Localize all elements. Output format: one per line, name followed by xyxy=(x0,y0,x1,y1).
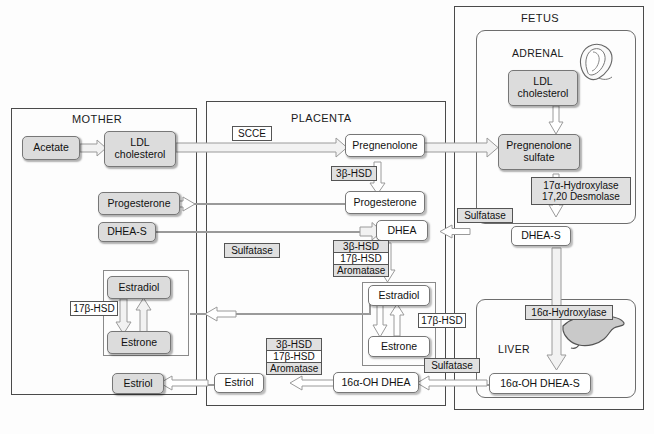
enzyme-stack-dhea-row-2: Aromatase xyxy=(333,264,389,277)
node-16a-oh-dhea-s[interactable]: 16α-OH DHEA-S xyxy=(489,373,591,394)
adrenal-gland-icon xyxy=(572,40,618,86)
enzyme-17b-hsd-placenta: 17β-HSD xyxy=(418,313,466,328)
enzyme-stack-dhea-row-1: 17β-HSD xyxy=(333,252,389,264)
pregnenolone-sulfate-line-2: sulfate xyxy=(524,152,555,164)
node-ldl-cholesterol-fetus[interactable]: LDL cholesterol xyxy=(508,70,578,106)
pathway-diagram: MOTHER PLACENTA FETUS ADRENAL LIVER .ha{… xyxy=(0,0,654,434)
enzyme-stack-estriol-row-2: Aromatase xyxy=(266,362,322,375)
node-16a-oh-dhea-placenta[interactable]: 16α-OH DHEA xyxy=(333,372,419,393)
node-progesterone-placenta[interactable]: Progesterone xyxy=(345,191,425,214)
enzyme-sulfatase-ohdhea: Sulfatase xyxy=(424,358,480,373)
ldl-line-2: cholesterol xyxy=(115,149,166,161)
node-estriol-mother[interactable]: Estriol xyxy=(112,373,164,394)
node-estriol-placenta[interactable]: Estriol xyxy=(214,373,264,393)
node-estrone-placenta[interactable]: Estrone xyxy=(368,336,430,357)
enzyme-17b-hsd-mother: 17β-HSD xyxy=(70,301,118,316)
enzyme-sulfatase-dhea: Sulfatase xyxy=(457,208,513,223)
node-ldl-cholesterol-mother[interactable]: LDL cholesterol xyxy=(104,131,176,167)
arrow-layer: .ha{fill:#f2f2f2;stroke:#9a9a9a;stroke-w… xyxy=(0,0,654,434)
node-estradiol-placenta[interactable]: Estradiol xyxy=(368,285,430,306)
node-dhea-s-mother[interactable]: DHEA-S xyxy=(98,222,156,242)
node-dhea-s-fetus[interactable]: DHEA-S xyxy=(511,226,571,246)
enzyme-stack-estriol: 3β-HSD 17β-HSD Aromatase xyxy=(266,338,322,375)
node-dhea-placenta[interactable]: DHEA xyxy=(376,220,428,241)
node-estradiol-mother[interactable]: Estradiol xyxy=(107,276,171,299)
enzyme-stack-dhea: 3β-HSD 17β-HSD Aromatase xyxy=(333,240,389,277)
enzyme-stack-dhea-row-0: 3β-HSD xyxy=(333,240,389,252)
node-acetate[interactable]: Acetate xyxy=(22,136,80,160)
enzyme-3b-hsd-top: 3β-HSD xyxy=(331,166,377,181)
enzyme-sulfatase-placenta: Sulfatase xyxy=(224,243,280,258)
enzyme-scce: SCCE xyxy=(232,126,272,141)
hydroxylase-line-1: 17α-Hydroxylase xyxy=(543,180,618,191)
node-pregnenolone-placenta[interactable]: Pregnenolone xyxy=(345,134,425,157)
node-estrone-mother[interactable]: Estrone xyxy=(107,331,171,354)
fetal-ldl-line-2: cholesterol xyxy=(518,88,569,100)
enzyme-stack-estriol-row-1: 17β-HSD xyxy=(266,350,322,362)
enzyme-16a-hydroxylase: 16α-Hydroxylase xyxy=(525,305,613,320)
enzyme-stack-estriol-row-0: 3β-HSD xyxy=(266,338,322,350)
node-progesterone-mother[interactable]: Progesterone xyxy=(98,192,180,215)
node-pregnenolone-sulfate[interactable]: Pregnenolone sulfate xyxy=(498,134,580,170)
enzyme-17a-hydroxylase-desmolase: 17α-Hydroxylase 17,20 Desmolase xyxy=(531,177,631,205)
hydroxylase-line-2: 17,20 Desmolase xyxy=(542,191,620,202)
